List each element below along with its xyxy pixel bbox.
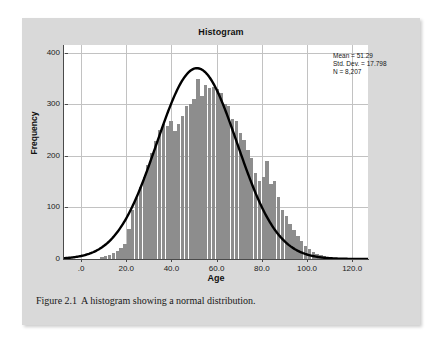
stat-n: N = 8,207 [333, 68, 387, 76]
caption-text: A histogram showing a normal distributio… [81, 295, 255, 306]
figure-caption: Figure 2.1A histogram showing a normal d… [36, 295, 416, 306]
y-tick-label-400: 400 [30, 49, 60, 57]
x-tick-label-0: .0 [61, 264, 101, 273]
y-axis-line [63, 45, 64, 260]
chart-title: Histogram [22, 27, 420, 37]
x-tick-label-80: 80.0 [242, 264, 282, 273]
figure-panel: Histogram 0100200300400 Frequency .020.0… [22, 18, 420, 325]
normal-distribution-curve [63, 45, 368, 259]
histogram-chart: Histogram 0100200300400 Frequency .020.0… [22, 18, 420, 286]
x-tick-mark-80 [262, 259, 263, 262]
x-tick-label-100: 100.0 [287, 264, 327, 273]
caption-number: Figure 2.1 [36, 295, 77, 306]
x-tick-mark-0 [81, 259, 82, 262]
y-axis-title: Frequency [29, 88, 39, 178]
stat-mean: Mean = 51.29 [333, 52, 387, 60]
x-tick-mark-40 [171, 259, 172, 262]
x-axis-title: Age [63, 273, 369, 283]
y-tick-mark-0 [65, 259, 68, 260]
x-tick-label-120: 120.0 [332, 264, 372, 273]
x-tick-label-20: 20.0 [106, 264, 146, 273]
stat-std-dev: Std. Dev. = 17.798 [333, 60, 387, 68]
x-tick-mark-100 [307, 259, 308, 262]
x-tick-label-60: 60.0 [197, 264, 237, 273]
y-tick-label-100: 100 [30, 203, 60, 211]
x-tick-mark-20 [126, 259, 127, 262]
statistics-annotation: Mean = 51.29 Std. Dev. = 17.798 N = 8,20… [333, 52, 387, 77]
x-tick-label-40: 40.0 [151, 264, 191, 273]
x-tick-mark-120 [352, 259, 353, 262]
x-tick-mark-60 [217, 259, 218, 262]
y-tick-mark-400 [65, 53, 68, 54]
y-tick-mark-200 [65, 156, 68, 157]
y-tick-mark-300 [65, 104, 68, 105]
x-axis-line [63, 259, 369, 260]
y-tick-mark-100 [65, 207, 68, 208]
plot-area [63, 45, 368, 259]
